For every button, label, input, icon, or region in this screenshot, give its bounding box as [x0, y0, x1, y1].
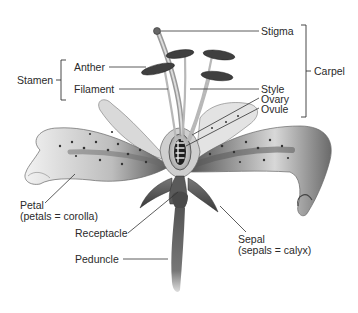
- peduncle: [171, 208, 185, 292]
- label-stamen: Stamen: [17, 75, 53, 86]
- label-carpel: Carpel: [314, 66, 345, 77]
- label-sepal-note: (sepals = calyx): [238, 245, 311, 256]
- label-stigma: Stigma: [261, 26, 294, 37]
- lily-anatomy-diagram: Stigma Carpel Stamen Anther Filament Sty…: [0, 0, 358, 313]
- flower-illustration: [0, 0, 358, 313]
- label-petal-note: (petals = corolla): [20, 211, 98, 222]
- label-filament: Filament: [74, 84, 114, 95]
- petal-left: [25, 128, 170, 185]
- stamen-bracket: [56, 60, 66, 100]
- style: [158, 32, 182, 134]
- label-peduncle: Peduncle: [75, 254, 119, 265]
- carpel-bracket: [301, 25, 311, 117]
- anthers: [140, 48, 235, 82]
- stigma: [154, 28, 161, 35]
- label-ovule: Ovule: [261, 104, 288, 115]
- label-receptacle: Receptacle: [75, 228, 128, 239]
- label-anther: Anther: [74, 62, 105, 73]
